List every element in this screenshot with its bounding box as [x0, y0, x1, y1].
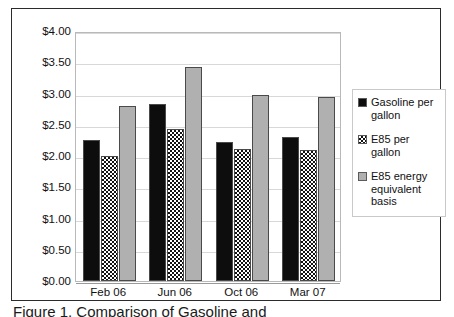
x-axis-tick-label: Mar 07: [290, 287, 326, 299]
bar: [318, 97, 335, 281]
y-axis-tick-label: $2.50: [42, 120, 71, 132]
solid-black-swatch: [358, 98, 367, 107]
legend-item[interactable]: E85 per gallon: [358, 133, 441, 158]
y-axis-tick-label: $0.50: [42, 245, 71, 257]
bar: [149, 104, 166, 281]
solid-gray-swatch: [358, 172, 367, 181]
figure-caption: Figure 1. Comparison of Gasoline and: [13, 303, 443, 317]
bar-group: [76, 33, 143, 281]
x-axis-tick-label: Oct 06: [224, 287, 258, 299]
bar: [119, 106, 136, 281]
bar: [83, 140, 100, 281]
checkerboard-swatch: [358, 135, 367, 144]
bar: [282, 137, 299, 281]
bar-group: [209, 33, 276, 281]
y-axis-tick-label: $1.00: [42, 214, 71, 226]
x-axis: Feb 06Jun 06Oct 06Mar 07: [75, 283, 341, 305]
legend-item[interactable]: Gasoline per gallon: [358, 96, 441, 121]
bar-groups: [76, 33, 340, 281]
chart-page: $4.00$3.50$3.00$2.50$2.00$1.50$1.00$0.50…: [0, 0, 454, 317]
legend-item-label: E85 per gallon: [371, 133, 441, 158]
bar: [216, 142, 233, 281]
chart-legend: Gasoline per gallonE85 per gallonE85 ene…: [352, 89, 446, 217]
bar: [167, 129, 184, 281]
plot-area: [75, 32, 341, 282]
y-axis-tick-label: $3.50: [42, 58, 71, 70]
bar: [252, 95, 269, 281]
y-axis-tick-label: $1.50: [42, 183, 71, 195]
figure-frame: $4.00$3.50$3.00$2.50$2.00$1.50$1.00$0.50…: [11, 8, 441, 301]
bar: [101, 156, 118, 281]
y-axis-tick-label: $0.00: [42, 276, 71, 288]
x-axis-tick-label: Jun 06: [157, 287, 192, 299]
bar-group: [276, 33, 343, 281]
legend-item-label: Gasoline per gallon: [371, 96, 441, 121]
bar: [185, 67, 202, 281]
bar: [234, 149, 251, 282]
y-axis-tick-label: $4.00: [42, 26, 71, 38]
x-axis-tick-label: Feb 06: [90, 287, 126, 299]
legend-item-label: E85 energy equivalent basis: [371, 170, 441, 208]
bar: [300, 150, 317, 281]
y-axis-tick-label: $3.00: [42, 89, 71, 101]
legend-item[interactable]: E85 energy equivalent basis: [358, 170, 441, 208]
bar-group: [143, 33, 210, 281]
y-axis: $4.00$3.50$3.00$2.50$2.00$1.50$1.00$0.50…: [23, 32, 75, 282]
y-axis-tick-label: $2.00: [42, 151, 71, 163]
